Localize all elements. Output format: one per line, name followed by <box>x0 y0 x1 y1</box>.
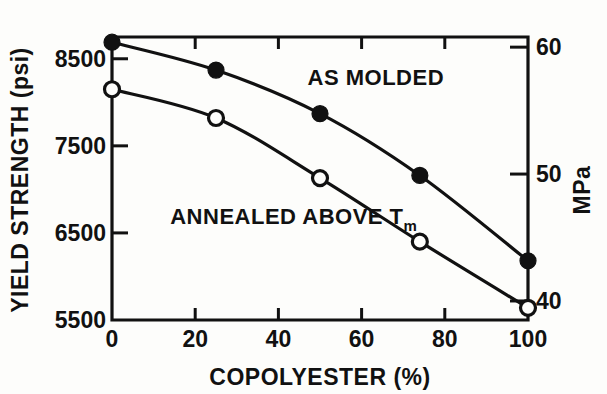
y2-tick-label: 60 <box>536 34 562 60</box>
y2-tick-label: 40 <box>536 288 562 314</box>
y2-tick-label: 50 <box>536 161 562 187</box>
data-point-open <box>412 234 427 249</box>
y-tick-label: 5500 <box>55 307 106 333</box>
x-tick-label: 0 <box>106 326 119 352</box>
y-tick-label: 7500 <box>55 133 106 159</box>
y-axis-title: YIELD STRENGTH (psi) <box>7 47 33 313</box>
annotation-text: AS MOLDED <box>308 65 445 90</box>
data-point-filled <box>104 34 120 50</box>
data-point-open <box>521 300 536 315</box>
y-axis-title-right: MPa <box>569 166 595 215</box>
yield-strength-chart: 020406080100 5500650075008500 405060 AS … <box>0 0 607 394</box>
annotation-subscript: m <box>404 217 418 234</box>
y-tick-label: 8500 <box>55 46 106 72</box>
y-tick-label: 6500 <box>55 220 106 246</box>
data-point-open <box>209 110 224 125</box>
data-point-filled <box>412 167 428 183</box>
data-point-filled <box>208 62 224 78</box>
annotation-text: ANNEALED ABOVE T <box>170 204 403 229</box>
data-point-filled <box>520 253 536 269</box>
x-tick-label: 80 <box>432 326 458 352</box>
data-point-filled <box>312 106 328 122</box>
annotation-label: ANNEALED ABOVE Tm <box>170 204 417 234</box>
x-axis-tick-labels: 020406080100 <box>106 326 548 352</box>
y-axis-tick-labels-right: 405060 <box>536 34 562 314</box>
series-annotations: AS MOLDEDANNEALED ABOVE Tm <box>170 65 444 234</box>
annotation-label: AS MOLDED <box>308 65 445 90</box>
x-tick-label: 60 <box>349 326 375 352</box>
y-axis-tick-labels-left: 5500650075008500 <box>55 46 106 333</box>
x-tick-label: 20 <box>182 326 208 352</box>
data-point-open <box>313 171 328 186</box>
x-tick-label: 40 <box>266 326 292 352</box>
x-tick-label: 100 <box>509 326 547 352</box>
data-point-open <box>105 82 120 97</box>
x-axis-title: COPOLYESTER (%) <box>209 364 430 390</box>
